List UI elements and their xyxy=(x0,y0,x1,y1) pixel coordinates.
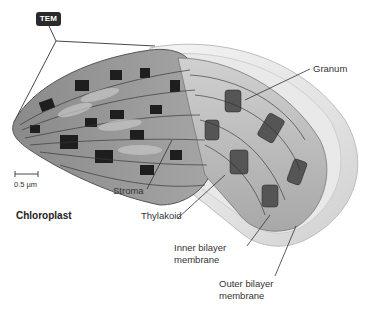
chloroplast-diagram: TEM 0.5 µm Chloroplast Granum Stroma Thy… xyxy=(0,0,369,310)
label-outer-membrane-line2: membrane xyxy=(219,290,264,301)
label-inner-membrane-line2: membrane xyxy=(174,254,219,265)
tem-badge: TEM xyxy=(36,12,61,26)
figure-title: Chloroplast xyxy=(16,210,72,221)
label-thylakoid: Thylakoid xyxy=(141,210,182,221)
label-inner-membrane-line1: Inner bilayer xyxy=(174,242,226,253)
label-outer-membrane-line1: Outer bilayer xyxy=(219,278,273,289)
label-stroma: Stroma xyxy=(113,185,144,196)
label-granum: Granum xyxy=(313,63,347,74)
scale-bar xyxy=(15,171,38,177)
scale-bar-label: 0.5 µm xyxy=(14,180,37,189)
